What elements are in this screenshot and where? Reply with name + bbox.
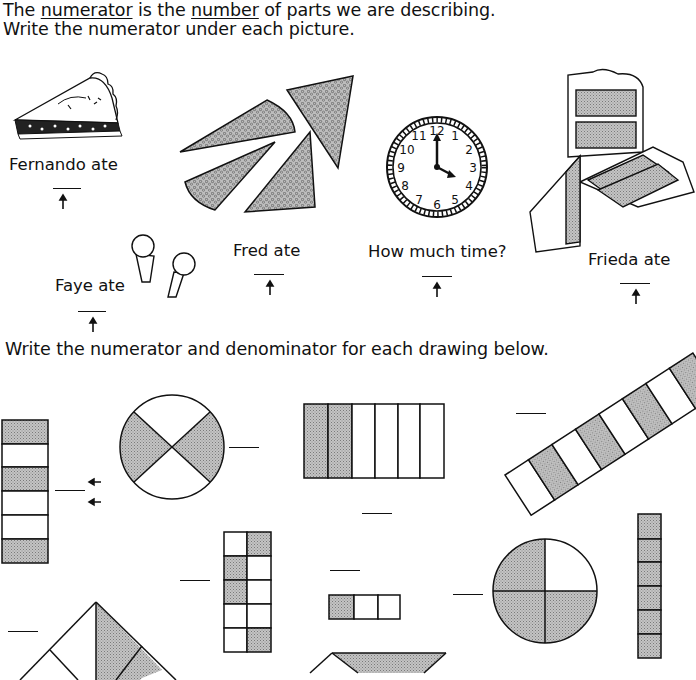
up-arrow-icon (265, 280, 275, 296)
answer-blank-frieda[interactable] (620, 283, 650, 284)
clock-number: 6 (433, 198, 441, 212)
clock-number: 5 (451, 193, 459, 207)
fraction-drawing-trapezoid (308, 652, 448, 673)
answer-blank-fernando[interactable] (53, 188, 81, 189)
fraction-drawing-row-of-3 (329, 595, 401, 621)
answer-blank-3[interactable] (362, 513, 392, 514)
section2-instruction: Write the numerator and denominator for … (5, 340, 549, 359)
fraction-drawing-columns (304, 404, 446, 480)
clock-number: 4 (465, 179, 473, 193)
up-arrow-icon (58, 194, 68, 210)
text: The (3, 0, 41, 20)
label-how-much-time: How much time? (368, 242, 507, 261)
left-arrow-icon (88, 478, 102, 486)
keyword-numerator: numerator (41, 0, 133, 20)
instruction-line-1: The numerator is the number of parts we … (3, 1, 495, 20)
instruction-line-2: Write the numerator under each picture. (3, 20, 355, 39)
answer-blank-5[interactable] (180, 580, 210, 581)
clock-icon: 12 1 2 3 4 5 6 7 8 9 10 11 (385, 115, 490, 220)
answer-blank-fred[interactable] (254, 274, 284, 275)
clock-number: 3 (469, 161, 477, 175)
fraction-drawing-full-strip (638, 514, 664, 660)
fraction-drawing-circle-quarters (493, 537, 599, 647)
answer-blank-7[interactable] (453, 594, 483, 595)
clock-number: 2 (465, 143, 473, 157)
up-arrow-icon (631, 289, 641, 305)
label-fernando: Fernando ate (9, 155, 118, 174)
fraction-drawing-diagonal-strip (500, 340, 696, 515)
fraction-drawing-grid (224, 532, 274, 656)
clock-number: 8 (401, 179, 409, 193)
clock-number: 9 (397, 161, 405, 175)
label-fred: Fred ate (233, 241, 300, 260)
answer-blank-1[interactable] (55, 490, 85, 491)
answer-blank-time[interactable] (422, 276, 452, 277)
label-faye: Faye ate (55, 276, 125, 295)
cake-slices-icon (518, 62, 696, 262)
clock-number: 7 (415, 193, 423, 207)
fraction-drawing-triangle (20, 600, 180, 680)
clock-number: 11 (411, 129, 426, 143)
answer-blank-2[interactable] (229, 447, 259, 448)
lollipops-icon (128, 232, 198, 302)
fraction-drawing-vertical-strip (2, 420, 50, 565)
pizza-slices-icon (175, 72, 365, 212)
clock-number: 10 (399, 143, 414, 157)
fraction-drawing-circle-x (119, 394, 225, 504)
text: of parts we are describing. (259, 0, 496, 20)
up-arrow-icon (88, 317, 98, 333)
answer-blank-6[interactable] (330, 570, 360, 571)
pie-slice-icon (10, 68, 125, 148)
text: is the (133, 0, 192, 20)
clock-number: 1 (451, 129, 459, 143)
label-frieda: Frieda ate (588, 250, 670, 269)
up-arrow-icon (432, 282, 442, 298)
answer-blank-faye[interactable] (78, 311, 106, 312)
left-arrow-icon (88, 498, 102, 506)
keyword-number: number (191, 0, 259, 20)
